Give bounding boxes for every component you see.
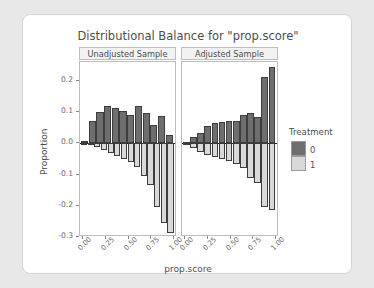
- chart-title: Distributional Balance for "prop.score": [23, 29, 353, 43]
- histogram-bar: [135, 106, 142, 143]
- legend-label-1: 1: [310, 160, 315, 170]
- y-tick-mark: [76, 236, 79, 237]
- histogram-bar: [219, 122, 226, 143]
- histogram-bar: [247, 113, 254, 144]
- x-axis-label: prop.score: [23, 264, 353, 274]
- y-tick-label: -0.2: [58, 200, 73, 209]
- histogram-bar: [108, 143, 114, 153]
- histogram-bar: [161, 143, 167, 223]
- x-tick-mark: [230, 236, 231, 239]
- histogram-bar: [212, 143, 219, 157]
- y-tick-label: 0.1: [61, 106, 73, 115]
- histogram-bar: [141, 143, 147, 176]
- histogram-bar: [269, 67, 276, 144]
- histogram-bar: [114, 143, 120, 156]
- histogram-bar: [121, 143, 127, 159]
- legend-label-0: 0: [310, 145, 315, 155]
- histogram-bar: [190, 143, 197, 148]
- histogram-bar: [88, 143, 94, 145]
- panel-strip-adjusted: Adjusted Sample: [181, 47, 278, 60]
- histogram-bar: [269, 143, 276, 209]
- histogram-bar: [197, 143, 204, 152]
- histogram-bar: [254, 143, 261, 182]
- histogram-bar: [128, 143, 134, 162]
- y-tick-mark: [76, 174, 79, 175]
- histogram-bar: [197, 133, 204, 143]
- legend-title: Treatment: [289, 127, 333, 137]
- y-axis-label: Proportion: [39, 128, 49, 174]
- histogram-bar: [158, 116, 165, 143]
- histogram-bar: [219, 143, 226, 159]
- histogram-bar: [150, 125, 157, 143]
- distributional-balance-plot: Distributional Balance for "prop.score" …: [23, 15, 353, 275]
- histogram-bar: [112, 108, 119, 144]
- y-tick-label: 0.2: [61, 75, 73, 84]
- histogram-bar: [81, 143, 87, 145]
- panel-adjusted-sample: [181, 61, 278, 236]
- panel-strip-unadjusted: Unadjusted Sample: [79, 47, 176, 60]
- histogram-bar: [254, 117, 261, 144]
- legend-swatch-0: [291, 141, 306, 156]
- histogram-bar: [94, 143, 100, 146]
- y-tick-mark: [76, 142, 79, 143]
- histogram-bar: [89, 121, 96, 143]
- histogram-bar: [104, 106, 111, 143]
- y-tick-mark: [76, 111, 79, 112]
- histogram-bar: [101, 143, 107, 150]
- y-tick-mark: [76, 80, 79, 81]
- chart-card: Distributional Balance for "prop.score" …: [22, 14, 352, 274]
- histogram-bar: [127, 115, 134, 143]
- histogram-bar: [212, 123, 219, 143]
- histogram-bar: [247, 143, 254, 177]
- histogram-bar: [154, 143, 160, 207]
- x-tick-mark: [128, 236, 129, 239]
- histogram-bar: [96, 112, 103, 143]
- histogram-bar: [119, 111, 126, 143]
- panel-unadjusted-sample: [79, 61, 176, 236]
- histogram-bar: [261, 77, 268, 143]
- histogram-bar: [167, 143, 173, 233]
- y-tick-label: -0.3: [58, 231, 73, 240]
- histogram-bar: [147, 143, 153, 185]
- histogram-bar: [204, 126, 211, 143]
- histogram-bar: [143, 113, 150, 144]
- histogram-bar: [134, 143, 140, 166]
- histogram-bar: [261, 143, 268, 207]
- y-tick-label: -0.1: [58, 169, 73, 178]
- y-tick-mark: [76, 205, 79, 206]
- legend-swatch-1: [291, 156, 306, 171]
- histogram-bar: [233, 143, 240, 163]
- histogram-bar: [166, 135, 173, 144]
- histogram-bar: [183, 143, 190, 145]
- histogram-bar: [240, 143, 247, 167]
- histogram-bar: [240, 115, 247, 143]
- histogram-bar: [226, 143, 233, 161]
- histogram-bar: [226, 121, 233, 143]
- histogram-bar: [233, 121, 240, 144]
- y-tick-label: 0.0: [61, 137, 73, 146]
- histogram-bar: [204, 143, 211, 155]
